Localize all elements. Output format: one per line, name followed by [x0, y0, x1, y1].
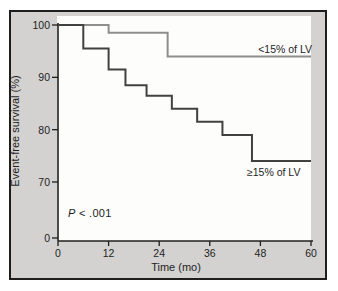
x-axis-title: Time (mo) [151, 261, 201, 273]
x-tick-label: 24 [153, 247, 165, 259]
y-tick-label: 70 [38, 176, 50, 188]
series-label-ge15-of-lv: ≥15% of LV [247, 166, 300, 178]
x-tick-label: 12 [103, 247, 115, 259]
x-tick-label: 60 [305, 247, 317, 259]
y-tick-label: 90 [38, 71, 50, 83]
x-tick-label: 48 [255, 247, 267, 259]
y-tick-label: 80 [38, 124, 50, 136]
figure: Event-free survival (%) Time (mo) P < .0… [0, 0, 338, 291]
y-axis-title: Event-free survival (%) [9, 75, 21, 186]
p-value-text: < .001 [76, 207, 112, 219]
p-value-annotation: P < .001 [68, 207, 112, 219]
x-tick-label: 0 [55, 247, 61, 259]
p-symbol: P [68, 207, 76, 219]
series-label-lt15-of-lv: <15% of LV [258, 43, 312, 55]
y-tick-label: 0 [44, 232, 50, 244]
y-tick-label: 100 [32, 19, 50, 31]
x-tick-label: 36 [204, 247, 216, 259]
